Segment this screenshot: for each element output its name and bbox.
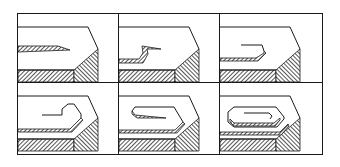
panel-step-5 <box>119 96 199 151</box>
panel-step-3 <box>220 27 300 82</box>
panel-step-6 <box>220 96 300 151</box>
hem-folding-diagram <box>0 0 340 167</box>
panel-step-2 <box>119 27 199 82</box>
panel-step-1 <box>18 27 98 82</box>
panel-step-4 <box>18 96 98 151</box>
